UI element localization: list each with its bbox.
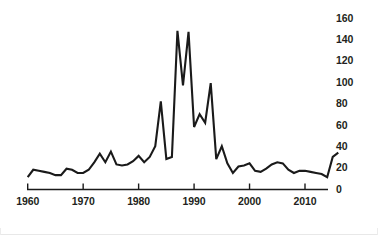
y-tick-label-140: 140 (336, 33, 353, 45)
x-tick-label-1960: 1960 (16, 195, 39, 207)
line-chart-plot: 196019701980199020002010 020406080100120… (0, 0, 378, 235)
x-tick-label-1990: 1990 (183, 195, 206, 207)
chart-container: 196019701980199020002010 020406080100120… (0, 0, 378, 235)
x-tick-label-1980: 1980 (127, 195, 150, 207)
data-series-line (28, 31, 339, 177)
x-axis-tick-marks (28, 184, 305, 190)
x-tick-label-1970: 1970 (72, 195, 95, 207)
x-tick-label-2010: 2010 (294, 195, 317, 207)
y-tick-label-60: 60 (336, 119, 348, 131)
left-edge-divider (0, 228, 1, 235)
y-tick-label-0: 0 (336, 183, 342, 195)
y-tick-label-40: 40 (336, 140, 348, 152)
x-axis-tick-labels: 196019701980199020002010 (16, 195, 317, 207)
y-tick-label-80: 80 (336, 97, 348, 109)
y-tick-label-120: 120 (336, 54, 353, 66)
x-tick-label-2000: 2000 (238, 195, 261, 207)
y-tick-label-160: 160 (336, 12, 353, 24)
bottom-divider (0, 234, 378, 235)
y-tick-label-100: 100 (336, 76, 353, 88)
y-tick-label-20: 20 (336, 161, 348, 173)
y-axis-tick-labels: 020406080100120140160 (336, 12, 353, 195)
